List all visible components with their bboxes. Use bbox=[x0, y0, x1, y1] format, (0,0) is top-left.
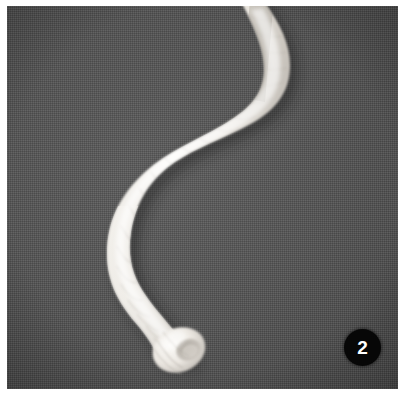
figure-root: 2 bbox=[0, 0, 406, 398]
figure-number-badge: 2 bbox=[344, 329, 381, 366]
figure-number-label: 2 bbox=[357, 338, 368, 357]
specimen-body-layer bbox=[7, 6, 398, 389]
specimen-photograph: 2 bbox=[7, 6, 398, 389]
specimen-illustration bbox=[7, 6, 398, 389]
